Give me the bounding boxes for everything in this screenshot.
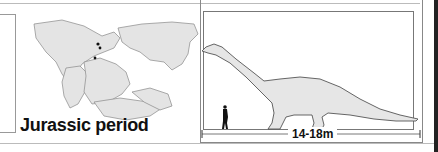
scale-label: 14-18m: [288, 127, 337, 141]
human-silhouette-icon: [222, 105, 228, 129]
bottom-divider: [0, 143, 438, 144]
sauropod-silhouette: [200, 11, 422, 131]
left-panel-edge: [0, 14, 16, 133]
jurassic-world-map: [22, 12, 202, 130]
right-edge-bar: [434, 0, 438, 152]
map-title: Jurassic period: [20, 115, 149, 136]
